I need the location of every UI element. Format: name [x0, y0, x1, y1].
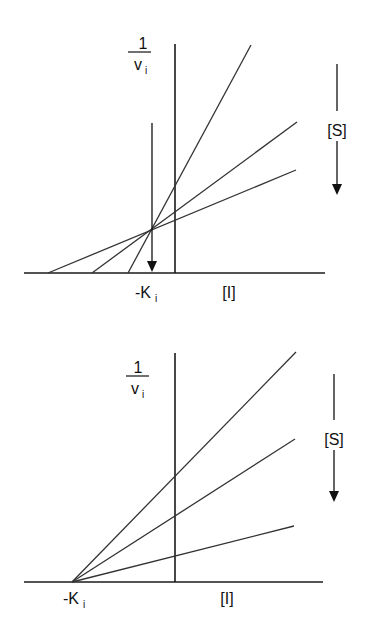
- y-label-denominator: v: [131, 380, 139, 397]
- line-mid-s: [92, 122, 297, 273]
- s-label: [S]: [324, 431, 344, 448]
- ki-label: -K: [135, 284, 151, 301]
- s-label: [S]: [327, 122, 347, 139]
- ki-label: -K: [63, 590, 79, 607]
- ki-subscript: i: [155, 293, 157, 304]
- ki-subscript: i: [83, 599, 85, 610]
- arrowhead-icon: [147, 261, 157, 272]
- line-high-s: [72, 526, 294, 582]
- line-low-s: [72, 352, 296, 582]
- top-chart: 1 v i [S] -K i [I]: [24, 35, 347, 304]
- down-arrow-icon: [332, 184, 342, 195]
- line-mid-s: [72, 439, 295, 582]
- dixon-plots: 1 v i [S] -K i [I] 1 v i [S] -K i [I]: [0, 0, 369, 640]
- y-label-subscript: i: [142, 389, 144, 400]
- y-label-numerator: 1: [134, 359, 143, 376]
- line-low-s: [128, 45, 251, 273]
- x-label: [I]: [222, 284, 235, 301]
- y-label-denominator: v: [134, 56, 142, 73]
- y-label-subscript: i: [145, 65, 147, 76]
- x-label: [I]: [220, 590, 233, 607]
- y-label-numerator: 1: [139, 35, 148, 52]
- line-high-s: [48, 170, 296, 273]
- down-arrow-icon: [329, 491, 339, 502]
- bottom-chart: 1 v i [S] -K i [I]: [24, 352, 344, 610]
